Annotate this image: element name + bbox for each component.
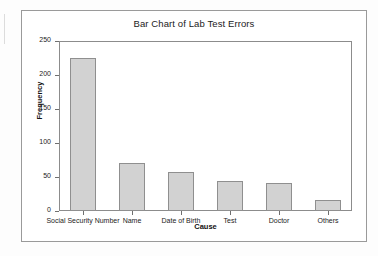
x-tick-mark [230,211,231,215]
scan-artifact-line [4,14,5,44]
y-tick-label: 0 [25,206,51,213]
y-tick-mark [55,177,59,178]
bar [266,183,292,211]
x-axis-title: Cause [59,222,352,231]
x-tick-mark [181,211,182,215]
plot-frame [59,41,352,211]
y-tick-mark [55,41,59,42]
bar [70,58,96,211]
y-axis-title: Frequency [35,56,44,146]
x-tick-mark [83,211,84,215]
bar [168,172,194,211]
y-tick-mark [55,143,59,144]
x-tick-mark [279,211,280,215]
screenshot-page: Bar Chart of Lab Test Errors Frequency 0… [0,0,378,256]
bar [119,163,145,211]
bar [217,181,243,211]
x-tick-mark [328,211,329,215]
y-tick-mark [55,211,59,212]
chart-title: Bar Chart of Lab Test Errors [21,18,367,29]
x-tick-mark [132,211,133,215]
y-tick-label: 150 [25,104,51,111]
bar [315,200,341,211]
y-tick-label: 200 [25,70,51,77]
y-tick-label: 50 [25,172,51,179]
y-tick-mark [55,75,59,76]
y-tick-label: 250 [25,36,51,43]
y-tick-mark [55,109,59,110]
y-tick-label: 100 [25,138,51,145]
